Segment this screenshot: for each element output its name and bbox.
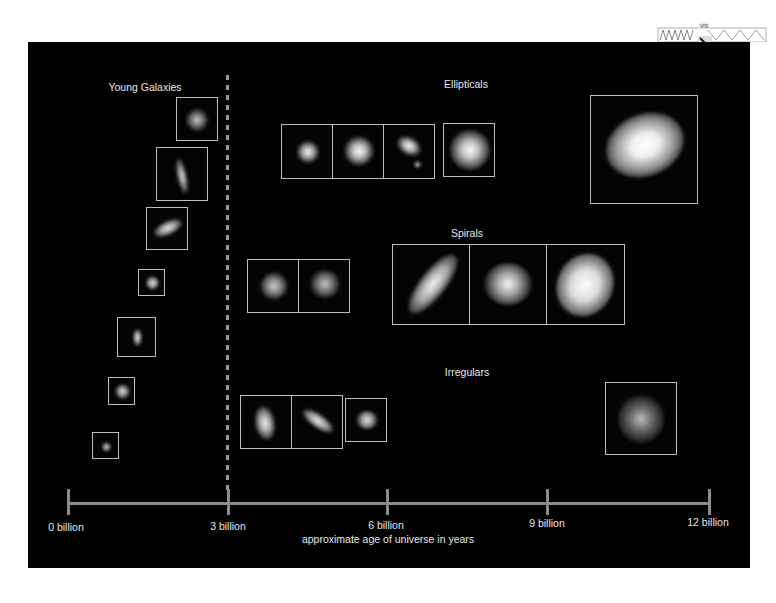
logo-badge-icon: VIS [648, 18, 776, 42]
three-billion-divider [226, 75, 229, 490]
spiral-frame-1 [247, 259, 299, 313]
axis-tick-12 [708, 489, 711, 515]
elliptical-frame-3 [383, 124, 435, 179]
elliptical-frame-5-large [590, 95, 698, 204]
axis-label-3: 3 billion [210, 520, 246, 532]
spiral-frame-3 [392, 244, 470, 325]
young-galaxy-frame-4 [138, 269, 165, 296]
spiral-frame-4 [469, 244, 547, 325]
axis-tick-9 [546, 489, 549, 515]
axis-label-9: 9 billion [529, 517, 565, 529]
irregulars-title: Irregulars [445, 366, 489, 378]
elliptical-frame-2 [332, 124, 384, 179]
spirals-title: Spirals [451, 227, 483, 239]
axis-label-0: 0 billion [48, 521, 84, 533]
ellipticals-title: Ellipticals [444, 78, 488, 90]
young-galaxy-frame-3 [146, 207, 188, 250]
young-galaxy-frame-6 [108, 377, 135, 405]
axis-caption: approximate age of universe in years [302, 533, 474, 545]
axis-tick-0 [67, 489, 70, 515]
svg-text:VIS: VIS [700, 23, 709, 29]
spiral-frame-5 [546, 244, 625, 325]
irregular-frame-2 [291, 395, 343, 449]
young-galaxy-frame-5 [117, 317, 156, 357]
axis-tick-6 [386, 489, 389, 515]
corner-logo-badge: VIS [648, 18, 776, 42]
irregular-frame-1 [240, 395, 292, 449]
axis-label-6: 6 billion [368, 519, 404, 531]
young-galaxies-title: Young Galaxies [108, 81, 181, 93]
elliptical-frame-1 [281, 124, 333, 179]
young-galaxy-frame-7 [92, 432, 119, 459]
young-galaxy-frame-2 [156, 147, 208, 201]
elliptical-frame-4 [443, 123, 495, 177]
irregular-frame-3 [345, 398, 387, 442]
young-galaxy-frame-1 [176, 97, 218, 141]
irregular-frame-4-large [605, 382, 677, 455]
spiral-frame-2 [298, 259, 350, 313]
axis-label-12: 12 billion [687, 516, 728, 528]
axis-tick-3 [227, 489, 230, 515]
